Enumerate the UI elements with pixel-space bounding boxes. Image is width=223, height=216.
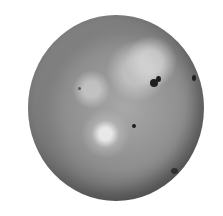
dark-spot (156, 76, 161, 82)
dark-spot (78, 87, 81, 90)
dark-spot (132, 124, 136, 128)
dark-spot (192, 75, 196, 81)
dark-spot (171, 168, 178, 174)
moon-image (28, 15, 204, 201)
